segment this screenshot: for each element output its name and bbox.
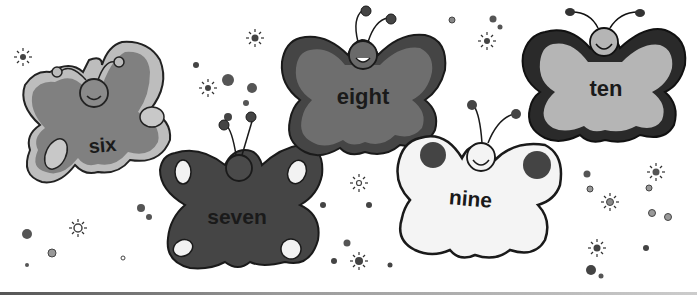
butterfly-illustration: six seven eight nine — [0, 0, 697, 295]
butterfly-ten: ten — [523, 8, 686, 142]
label-six: six — [88, 133, 118, 157]
label-eight: eight — [337, 84, 390, 109]
butterfly-six: six — [23, 42, 170, 183]
label-ten: ten — [590, 76, 623, 101]
butterfly-eight: eight — [282, 6, 446, 155]
label-seven: seven — [207, 205, 267, 228]
label-nine: nine — [448, 185, 493, 212]
